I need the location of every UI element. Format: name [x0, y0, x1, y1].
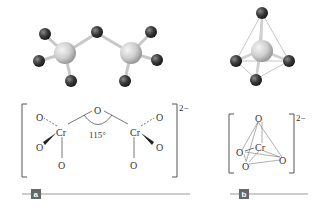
o-atom	[119, 75, 131, 87]
bracket-right	[172, 104, 177, 177]
bracket-left	[229, 114, 234, 173]
label-a: a	[34, 190, 39, 199]
atom-o: O	[36, 142, 43, 153]
atom-cr: Cr	[255, 142, 266, 153]
charge-b: 2−	[296, 113, 306, 123]
o-atom	[65, 75, 77, 87]
o-atom	[283, 55, 295, 67]
o-atom	[256, 7, 268, 19]
atom-o: O	[156, 112, 163, 123]
structural-formula-a: 2− O Cr Cr O O O O	[22, 103, 189, 177]
cr-atom	[251, 40, 273, 62]
panel-label-a: a	[22, 189, 190, 199]
atom-o: O	[156, 142, 163, 153]
o-atom	[151, 54, 163, 66]
cr-atom-right	[120, 42, 142, 64]
atom-o-right: O	[279, 155, 286, 166]
dichromate-diagram: 2− O Cr Cr O O O O	[0, 0, 323, 211]
structural-formula-b: 2− O O O O Cr	[229, 113, 306, 173]
bracket-right	[289, 114, 294, 173]
bracket-left	[22, 104, 27, 177]
o-atom	[230, 55, 242, 67]
atom-o-left: O	[236, 147, 243, 158]
o-atom-bridge	[91, 26, 103, 38]
o-atom	[33, 55, 45, 67]
atom-cr-right: Cr	[130, 127, 141, 138]
charge-a: 2−	[179, 103, 189, 113]
atom-o: O	[58, 160, 65, 171]
label-b: b	[242, 190, 247, 199]
panel-label-b: b	[230, 189, 308, 199]
atom-o-bridge: O	[94, 105, 101, 116]
bond-angle: 115°	[89, 130, 106, 140]
atom-o-bottom: O	[242, 161, 249, 172]
atom-o-top: O	[255, 113, 262, 124]
atom-o: O	[36, 112, 43, 123]
o-atom	[39, 28, 51, 40]
ball-stick-model-a	[33, 26, 163, 87]
ball-stick-model-b	[230, 7, 295, 86]
atom-cr-left: Cr	[56, 127, 67, 138]
o-atom	[250, 74, 262, 86]
cr-atom-left	[54, 42, 76, 64]
o-atom	[145, 26, 157, 38]
atom-o: O	[130, 160, 137, 171]
